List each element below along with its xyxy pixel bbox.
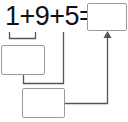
connector-to-answer <box>65 36 108 104</box>
arrow-up-icon <box>104 31 112 38</box>
connector-lines <box>0 0 128 122</box>
bracket-1-plus-9 <box>10 32 36 39</box>
connector-5-to-second <box>24 32 64 84</box>
